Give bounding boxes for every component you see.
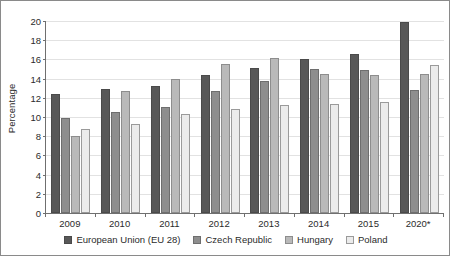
bar[interactable]: [161, 107, 170, 213]
legend-label: European Union (EU 28): [76, 234, 180, 245]
legend-item-czech-republic[interactable]: Czech Republic: [193, 234, 272, 245]
legend-item-european-union-eu-28[interactable]: European Union (EU 28): [64, 234, 180, 245]
bar[interactable]: [300, 59, 309, 213]
chart-legend: European Union (EU 28)Czech RepublicHung…: [1, 234, 450, 245]
bar[interactable]: [221, 64, 230, 213]
bar[interactable]: [51, 94, 60, 213]
y-axis-title: Percentage: [3, 1, 21, 215]
legend-swatch-icon: [193, 236, 201, 244]
x-axis-tick-mark: [145, 214, 146, 217]
bars-layer: [46, 21, 444, 213]
bar[interactable]: [121, 91, 130, 213]
bar[interactable]: [400, 22, 409, 213]
bar[interactable]: [410, 90, 419, 213]
bar[interactable]: [61, 118, 70, 213]
bar-group-2011: [146, 21, 196, 213]
x-axis-tick-label: 2011: [145, 214, 195, 232]
bar[interactable]: [71, 136, 80, 213]
y-axis-tick-label: 20: [30, 16, 41, 27]
x-axis-tick-label: 2010: [95, 214, 145, 232]
x-axis-tick-mark: [244, 214, 245, 217]
bar[interactable]: [250, 68, 259, 213]
y-axis-tick-label: 14: [30, 73, 41, 84]
bar[interactable]: [181, 114, 190, 213]
y-axis-tick-label: 12: [30, 92, 41, 103]
bar[interactable]: [201, 75, 210, 213]
y-axis-tick-label: 4: [36, 169, 41, 180]
bar-group-2013: [245, 21, 295, 213]
y-axis-tick-label: 18: [30, 35, 41, 46]
bar[interactable]: [280, 105, 289, 213]
x-axis-tick-label: 2012: [194, 214, 244, 232]
y-axis-tick-label: 0: [36, 208, 41, 219]
bar-group-2014: [295, 21, 345, 213]
bar-group-2012: [195, 21, 245, 213]
legend-item-poland[interactable]: Poland: [346, 234, 388, 245]
legend-swatch-icon: [285, 236, 293, 244]
bar[interactable]: [420, 74, 429, 213]
y-axis-tick-label: 8: [36, 131, 41, 142]
bar[interactable]: [131, 124, 140, 213]
x-axis-tick-mark: [294, 214, 295, 217]
bar[interactable]: [211, 91, 220, 213]
bar-group-2020star: [394, 21, 444, 213]
x-axis-tick-mark: [45, 214, 46, 217]
bar[interactable]: [430, 65, 439, 213]
x-axis-tick-label: 2009: [45, 214, 95, 232]
y-axis-title-label: Percentage: [7, 83, 18, 133]
x-axis-tick-mark: [344, 214, 345, 217]
legend-label: Poland: [358, 234, 388, 245]
bar[interactable]: [380, 102, 389, 213]
y-axis-tick-label: 10: [30, 112, 41, 123]
bar[interactable]: [81, 129, 90, 213]
legend-label: Czech Republic: [205, 234, 272, 245]
bar[interactable]: [231, 109, 240, 213]
bar[interactable]: [320, 74, 329, 213]
y-axis-tick-label: 6: [36, 150, 41, 161]
x-axis: 20092010201120122013201420152020*: [45, 214, 443, 232]
x-axis-tick-mark: [95, 214, 96, 217]
legend-swatch-icon: [346, 236, 354, 244]
x-axis-tick-mark: [194, 214, 195, 217]
bar[interactable]: [370, 75, 379, 213]
bar-group-2009: [46, 21, 96, 213]
bar[interactable]: [101, 89, 110, 213]
x-axis-tick-label: 2013: [244, 214, 294, 232]
bar[interactable]: [360, 70, 369, 213]
x-axis-tick-mark: [393, 214, 394, 217]
bar[interactable]: [171, 79, 180, 213]
legend-swatch-icon: [64, 236, 72, 244]
bar-group-2015: [345, 21, 395, 213]
y-axis-tick-label: 2: [36, 188, 41, 199]
bar[interactable]: [330, 104, 339, 213]
legend-label: Hungary: [297, 234, 333, 245]
bar[interactable]: [310, 69, 319, 213]
bar[interactable]: [350, 54, 359, 213]
bar[interactable]: [270, 58, 279, 213]
bar[interactable]: [260, 81, 269, 213]
legend-item-hungary[interactable]: Hungary: [285, 234, 333, 245]
bar[interactable]: [111, 112, 120, 213]
x-axis-tick-label: 2015: [344, 214, 394, 232]
bar[interactable]: [151, 86, 160, 213]
bar-group-2010: [96, 21, 146, 213]
x-axis-tick-label: 2014: [294, 214, 344, 232]
plot-area: 02468101214161820: [45, 21, 444, 214]
y-axis-tick-label: 16: [30, 54, 41, 65]
bar-chart-figure: Percentage 02468101214161820 20092010201…: [0, 0, 450, 256]
x-axis-tick-mark: [443, 214, 444, 217]
x-axis-tick-label: 2020*: [393, 214, 443, 232]
